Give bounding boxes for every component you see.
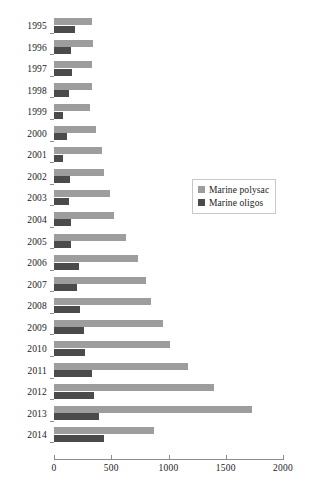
x-axis-tick-label: 1000: [159, 463, 179, 473]
bar-polysac-2008: [54, 298, 151, 305]
legend-label-oligos: Marine oligos: [209, 198, 263, 208]
bar-oligos-2011: [54, 370, 92, 377]
x-axis-tick-label: 1500: [216, 463, 236, 473]
bar-chart: 1995199619971998199920002001200220032004…: [0, 0, 309, 490]
y-axis-label: 2009: [27, 323, 47, 333]
y-axis-label: 1999: [27, 107, 47, 117]
bar-oligos-2002: [54, 176, 70, 183]
bar-polysac-2010: [54, 341, 170, 348]
bar-polysac-2000: [54, 126, 96, 133]
bar-polysac-1999: [54, 104, 90, 111]
bar-polysac-2003: [54, 190, 110, 197]
y-axis-label: 2006: [27, 258, 47, 268]
bar-polysac-2013: [54, 406, 252, 413]
y-axis-label: 2002: [27, 172, 47, 182]
bar-oligos-1996: [54, 47, 71, 54]
legend-swatch-icon-polysac: [198, 186, 205, 193]
y-axis-tick: [50, 399, 54, 400]
y-axis-tick: [50, 334, 54, 335]
y-axis-tick: [50, 270, 54, 271]
bar-oligos-2005: [54, 241, 71, 248]
legend-item-marine-oligos: Marine oligos: [198, 196, 269, 209]
bar-oligos-2007: [54, 284, 77, 291]
y-axis-tick: [50, 141, 54, 142]
y-axis-tick: [50, 248, 54, 249]
y-axis-tick: [50, 76, 54, 77]
bar-oligos-2006: [54, 263, 79, 270]
bar-polysac-2002: [54, 169, 104, 176]
y-axis-label: 2010: [27, 344, 47, 354]
y-axis-tick: [50, 356, 54, 357]
bar-polysac-2006: [54, 255, 138, 262]
bar-polysac-2005: [54, 234, 126, 241]
x-axis-tick-label: 0: [52, 463, 57, 473]
y-axis-tick: [50, 54, 54, 55]
bar-polysac-2011: [54, 363, 188, 370]
y-axis-label: 2005: [27, 237, 47, 247]
y-axis-label: 1995: [27, 21, 47, 31]
y-axis-tick: [50, 421, 54, 422]
bar-oligos-2008: [54, 306, 80, 313]
y-axis-tick: [50, 291, 54, 292]
bar-polysac-1995: [54, 18, 92, 25]
y-axis-label: 2001: [27, 150, 47, 160]
bar-polysac-2012: [54, 384, 214, 391]
y-axis-label: 2007: [27, 280, 47, 290]
bar-oligos-2001: [54, 155, 63, 162]
y-axis-label: 2014: [27, 430, 47, 440]
y-axis-label: 1996: [27, 43, 47, 53]
y-axis-label: 2000: [27, 129, 47, 139]
y-axis-label: 2004: [27, 215, 47, 225]
x-axis-tick-label: 2000: [273, 463, 293, 473]
y-axis-label: 2012: [27, 387, 47, 397]
x-axis-line: [54, 459, 283, 460]
x-axis-tick: [283, 455, 284, 460]
y-axis-label: 2008: [27, 301, 47, 311]
y-axis-tick: [50, 378, 54, 379]
y-axis-tick: [50, 227, 54, 228]
bar-polysac-2004: [54, 212, 114, 219]
x-axis-tick-label: 500: [104, 463, 119, 473]
y-axis-tick: [50, 119, 54, 120]
bar-oligos-2012: [54, 392, 94, 399]
bar-oligos-1998: [54, 90, 69, 97]
legend-swatch-icon-oligos: [198, 199, 205, 206]
y-axis-label: 1997: [27, 64, 47, 74]
bar-polysac-2014: [54, 427, 154, 434]
y-axis-tick: [50, 442, 54, 443]
y-axis-tick: [50, 205, 54, 206]
bar-oligos-2009: [54, 327, 84, 334]
y-axis-tick: [50, 97, 54, 98]
bar-polysac-2007: [54, 277, 146, 284]
y-axis-tick: [50, 162, 54, 163]
y-axis-label: 2013: [27, 409, 47, 419]
bar-oligos-1997: [54, 69, 72, 76]
legend-label-polysac: Marine polysac: [209, 185, 269, 195]
y-axis-tick: [50, 184, 54, 185]
y-axis-label: 1998: [27, 86, 47, 96]
bar-oligos-2014: [54, 435, 104, 442]
bar-oligos-2010: [54, 349, 85, 356]
plot-area: 1995199619971998199920002001200220032004…: [0, 0, 309, 490]
chart-legend: Marine polysac Marine oligos: [192, 179, 276, 214]
bar-oligos-2013: [54, 413, 99, 420]
bar-oligos-2000: [54, 133, 67, 140]
bar-polysac-1996: [54, 40, 93, 47]
bar-polysac-2001: [54, 147, 102, 154]
legend-item-marine-polysac: Marine polysac: [198, 183, 269, 196]
y-axis-label: 2003: [27, 193, 47, 203]
bar-oligos-2004: [54, 219, 71, 226]
bar-oligos-1999: [54, 112, 63, 119]
y-axis-tick: [50, 313, 54, 314]
bar-oligos-1995: [54, 26, 75, 33]
y-axis-label: 2011: [28, 366, 47, 376]
bar-polysac-2009: [54, 320, 163, 327]
bar-polysac-1997: [54, 61, 92, 68]
y-axis-tick: [50, 33, 54, 34]
bar-polysac-1998: [54, 83, 92, 90]
bar-oligos-2003: [54, 198, 69, 205]
